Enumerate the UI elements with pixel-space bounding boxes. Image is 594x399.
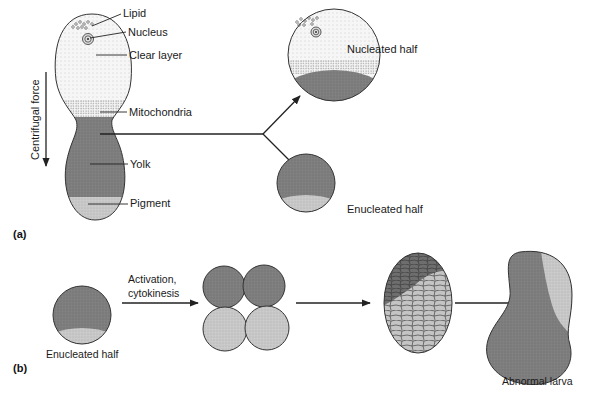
label-nucleated-half: Nucleated half: [347, 43, 418, 55]
label-lipid: Lipid: [123, 7, 146, 19]
label-centrifugal-force: Centrifugal force: [29, 79, 41, 160]
label-activation: Activation,: [128, 273, 176, 285]
label-enucleated-half-b: Enucleated half: [46, 348, 118, 360]
blastula: [384, 253, 452, 353]
nucleus: [83, 34, 94, 45]
label-yolk: Yolk: [130, 158, 151, 170]
label-nucleus: Nucleus: [128, 26, 168, 38]
label-abnormal-larva: Abnormal larva: [502, 375, 573, 387]
enucleated-half-cell-a: [264, 153, 348, 235]
label-enucleated-half-a: Enucleated half: [347, 203, 424, 215]
four-cell-stage: [203, 265, 289, 351]
panel-label-b: (b): [13, 362, 27, 374]
abnormal-larva: [480, 245, 580, 390]
panel-label-a: (a): [13, 228, 27, 240]
label-clear-layer: Clear layer: [129, 49, 183, 61]
label-pigment: Pigment: [130, 197, 170, 209]
label-mitochondria: Mitochondria: [129, 106, 193, 118]
embryology-diagram: Lipid Nucleus Clear layer Mitochondria Y…: [0, 0, 594, 399]
nucleated-half-cell: [274, 5, 394, 138]
centrifuged-egg: [50, 10, 140, 227]
label-cytokinesis: cytokinesis: [128, 287, 179, 299]
